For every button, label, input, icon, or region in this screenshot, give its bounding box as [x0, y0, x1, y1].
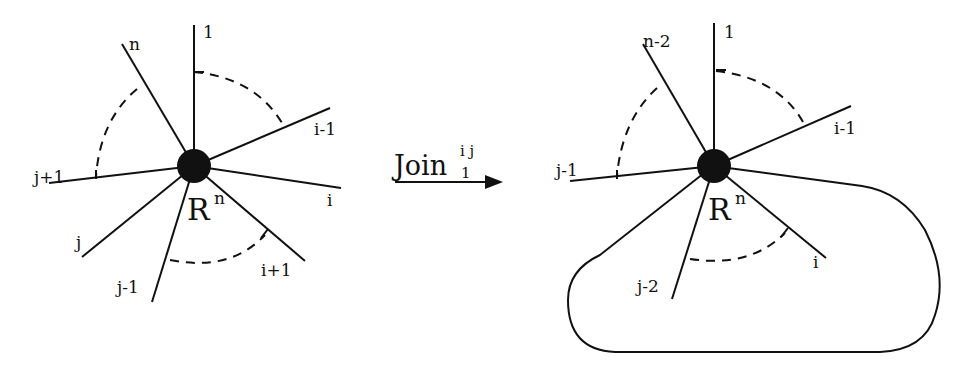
diagram-canvas: 1 n i-1 i i+1 j-1 j j+1 R n Join i j 1	[0, 0, 979, 369]
left-label-j-plus-1: j+1	[32, 167, 64, 187]
right-vertex-label: R	[708, 192, 732, 227]
left-vertex-superscript: n	[214, 188, 225, 208]
right-dashed-arc-bottom	[690, 233, 785, 261]
right-vertex-superscript: n	[735, 188, 746, 208]
right-edge-n-minus-2	[643, 44, 714, 166]
right-label-1: 1	[724, 22, 735, 42]
join-superscript: i j	[460, 142, 474, 160]
left-dashed-arc-bottom	[170, 235, 265, 263]
left-edge-j-plus-1	[49, 166, 194, 183]
right-label-i: i	[813, 252, 819, 272]
right-edge-i-minus-1	[714, 106, 851, 166]
left-diagram: 1 n i-1 i i+1 j-1 j j+1 R n	[32, 22, 341, 302]
join-subscript: 1	[461, 164, 471, 182]
right-dashed-arc-left	[617, 88, 657, 176]
left-dashed-arc-left	[96, 89, 137, 177]
right-label-j-minus-2: j-2	[635, 276, 659, 296]
left-vertex	[177, 149, 211, 183]
left-edge-n	[122, 44, 194, 166]
right-label-i-minus-1: i-1	[834, 118, 856, 138]
left-label-i-plus-1: i+1	[261, 260, 292, 280]
left-edge-j	[82, 166, 194, 257]
left-edge-j-minus-1	[152, 166, 194, 302]
right-label-n-minus-2: n-2	[643, 31, 671, 51]
right-edge-j-minus-2	[672, 166, 714, 299]
right-dashed-arc-top	[716, 71, 803, 122]
left-dashed-arc-top	[194, 72, 282, 123]
left-label-i: i	[327, 190, 333, 210]
right-label-j-minus-1: j-1	[554, 160, 578, 180]
left-edge-i-minus-1	[194, 108, 330, 166]
right-vertex	[697, 149, 731, 183]
right-diagram: 1 n-2 i-1 i j-2 j-1 R n	[554, 22, 940, 352]
right-loop-edge	[568, 166, 940, 352]
left-label-j: j	[74, 232, 81, 252]
left-label-i-minus-1: i-1	[314, 119, 336, 139]
right-tick-bottom	[781, 228, 788, 237]
left-label-1: 1	[203, 22, 214, 42]
left-label-n: n	[129, 34, 140, 54]
left-vertex-label: R	[187, 192, 211, 227]
right-edge-j-minus-1	[570, 166, 714, 181]
left-label-j-minus-1: j-1	[115, 277, 139, 297]
join-label: Join	[391, 150, 447, 181]
join-operation: Join i j 1	[391, 142, 503, 189]
join-arrow-head-icon	[485, 175, 503, 189]
